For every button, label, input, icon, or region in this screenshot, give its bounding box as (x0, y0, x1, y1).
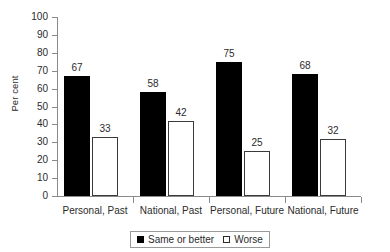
x-axis-category-label: National, Future (275, 205, 371, 217)
legend-label: Same or better (148, 235, 214, 245)
x-axis-tick (209, 197, 210, 203)
y-axis-tick-label: 0 (0, 191, 48, 201)
y-axis-tick-label: 100 (0, 12, 48, 22)
bar-value-label: 42 (161, 108, 201, 118)
open-square-icon (223, 236, 230, 243)
bar-value-label: 32 (313, 126, 353, 136)
bar-value-label: 25 (237, 138, 277, 148)
bar (168, 121, 194, 196)
bar-value-label: 75 (209, 49, 249, 59)
bar-value-label: 58 (133, 79, 173, 89)
bar (92, 137, 118, 196)
y-axis-tick (52, 142, 58, 143)
x-axis-tick (133, 197, 134, 203)
filled-square-icon (137, 236, 144, 243)
y-axis-tick-label: 50 (0, 102, 48, 112)
y-axis-tick-label: 80 (0, 48, 48, 58)
bar (320, 139, 346, 196)
y-axis-tick (52, 124, 58, 125)
y-axis-tick-label: 10 (0, 173, 48, 183)
bar (64, 76, 90, 196)
y-axis-tick (52, 107, 58, 108)
y-axis-tick-label: 60 (0, 84, 48, 94)
y-axis-tick (52, 53, 58, 54)
bar-chart: Per cent 0102030405060708090100 Personal… (0, 0, 390, 252)
bar (244, 151, 270, 196)
x-axis-tick (361, 197, 362, 203)
y-axis-tick (52, 35, 58, 36)
bar-value-label: 68 (285, 61, 325, 71)
y-axis-tick-label: 40 (0, 119, 48, 129)
x-axis-tick (285, 197, 286, 203)
bar-value-label: 33 (85, 124, 125, 134)
legend-item-same-or-better: Same or better (137, 235, 214, 245)
bar (216, 62, 242, 196)
chart-legend: Same or better Worse (130, 231, 270, 248)
y-axis-tick (52, 17, 58, 18)
y-axis-tick-label: 90 (0, 30, 48, 40)
y-axis-tick-label: 30 (0, 137, 48, 147)
legend-item-worse: Worse (223, 235, 263, 245)
legend-label: Worse (234, 235, 263, 245)
y-axis-tick (52, 160, 58, 161)
y-axis-tick (52, 89, 58, 90)
y-axis-tick-label: 20 (0, 155, 48, 165)
bar-value-label: 67 (57, 63, 97, 73)
y-axis-tick (52, 178, 58, 179)
y-axis-tick-label: 70 (0, 66, 48, 76)
